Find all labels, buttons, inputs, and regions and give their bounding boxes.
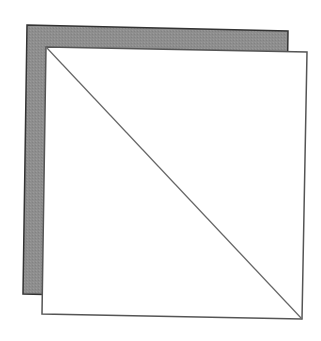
diagram-canvas [0, 0, 321, 341]
